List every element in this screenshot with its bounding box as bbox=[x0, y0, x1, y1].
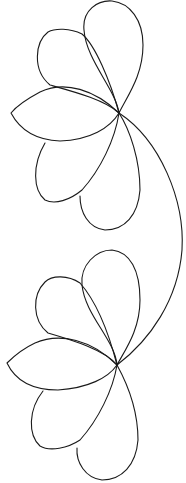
bottom-flower bbox=[7, 250, 140, 480]
petal-upper bbox=[36, 277, 117, 365]
petal-upper bbox=[37, 29, 119, 113]
petal-bottom bbox=[80, 113, 140, 230]
petal-middle bbox=[7, 338, 117, 390]
flower-drawing bbox=[0, 0, 186, 483]
petal-middle bbox=[11, 87, 119, 141]
petal-bottom bbox=[77, 365, 138, 480]
stem bbox=[117, 113, 182, 365]
